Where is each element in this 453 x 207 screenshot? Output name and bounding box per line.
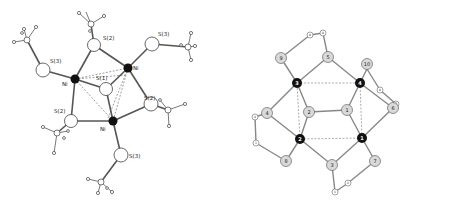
bonds — [27, 24, 188, 182]
ligand-label-10: 10 — [364, 61, 370, 67]
label-s2-right: S(2) — [144, 95, 155, 101]
ligand-label-2: 2 — [307, 109, 310, 115]
small-label-h: 2 — [347, 181, 349, 185]
label-s3-left: S(3) — [50, 58, 61, 64]
label-ni-b: Ni — [133, 65, 139, 71]
ligand-label-1: 1 — [345, 107, 348, 113]
metal-label-2: 2 — [298, 136, 302, 142]
small-label-b: 8 — [322, 31, 324, 35]
label-s3-bottom: S(3) — [129, 153, 140, 159]
label-s1: S(1) — [96, 75, 107, 81]
ball-and-stick-diagram: Ni Ni Ni S(1) S(2) S(2) S(2) S(3) S(3) S… — [0, 0, 230, 207]
label-ni-a: Ni — [62, 81, 68, 87]
metal-label-3: 3 — [295, 80, 299, 86]
metal-label-4: 4 — [358, 80, 362, 86]
label-ni-c: Ni — [100, 126, 106, 132]
ligand-label-9: 9 — [279, 55, 282, 61]
ligand-label-8: 8 — [284, 158, 287, 164]
small-label-a: 8 — [309, 33, 311, 37]
ligand-label-3: 3 — [330, 162, 333, 168]
label-s2-top: S(2) — [103, 35, 114, 41]
label-s2-left: S(2) — [54, 108, 65, 114]
small-label-g: 1 — [334, 190, 336, 194]
small-label-c: 8 — [379, 88, 381, 92]
ligand-label-7: 7 — [373, 158, 376, 164]
schematic-framework-diagram: 8 8 8 7 4 1 1 2 1 2 3 4 5 6 7 8 9 10 1 2… — [230, 0, 453, 207]
metal-label-1: 1 — [360, 135, 364, 141]
ligand-label-5: 5 — [326, 54, 329, 60]
small-label-f: 1 — [255, 141, 257, 145]
label-s3-right: S(3) — [158, 31, 169, 37]
ligand-label-6: 6 — [391, 105, 394, 111]
small-label-e: 4 — [254, 115, 256, 119]
ligand-label-4: 4 — [265, 110, 268, 116]
